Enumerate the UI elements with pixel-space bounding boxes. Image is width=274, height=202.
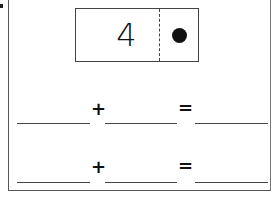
answer-blank-sum[interactable] [195, 123, 268, 124]
bullet-mark [0, 4, 3, 8]
domino-right-half [160, 9, 198, 61]
domino-number: 4 [98, 16, 136, 54]
equation-row-2: + = [0, 158, 274, 188]
answer-blank-addend-1[interactable] [17, 123, 90, 124]
equals-sign: = [178, 97, 193, 118]
answer-blank-sum[interactable] [195, 182, 268, 183]
answer-blank-addend-1[interactable] [17, 182, 90, 183]
domino-card: 4 [75, 8, 199, 62]
domino-left-half: 4 [76, 9, 159, 61]
answer-blank-addend-2[interactable] [105, 123, 177, 124]
plus-sign: + [91, 156, 106, 177]
answer-blank-addend-2[interactable] [105, 182, 177, 183]
dot-icon [172, 28, 187, 43]
equals-sign: = [178, 155, 193, 176]
plus-sign: + [91, 98, 106, 119]
equation-row-1: + = [0, 100, 274, 130]
